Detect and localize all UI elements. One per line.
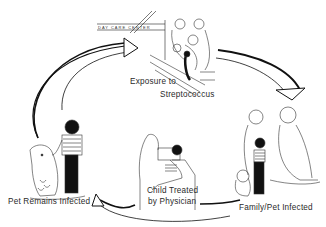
arrowhead-pet [92,194,104,206]
family-illustration [235,107,320,196]
label-family-pet-infected: Family/Pet Infected [239,203,313,213]
day-care-sign-text: DAY CARE CENTER [98,25,151,30]
arrowhead-exposure [124,38,138,57]
label-exposure-line1: Exposure to [130,77,176,87]
label-exposure-line2: Streptococcus [160,90,214,100]
arrow-exposure-to-family [218,50,300,90]
arrowhead-family [276,88,305,100]
arrow-treated-to-pet [100,200,135,208]
label-treated-line1: Child Treated [147,186,198,196]
arrow-family-to-treated [200,200,240,204]
child-and-pet-illustration [30,120,85,199]
infection-cycle-diagram: DAY CARE CENTER Exposure to Streptococcu… [0,0,326,227]
label-pet-remains-infected: Pet Remains Infected [8,197,90,207]
arrow-pet-to-exposure [33,46,125,138]
label-treated-line2: by Physician [148,197,196,207]
